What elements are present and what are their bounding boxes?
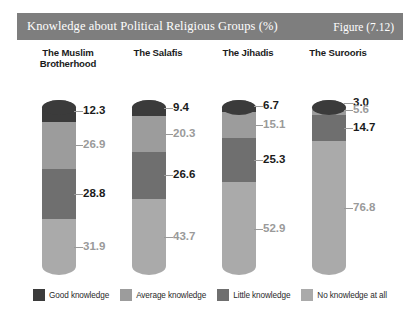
chart-group: The Surooris3.05.614.776.8 (290, 48, 386, 280)
stacked-cylinder-bar[interactable] (42, 100, 76, 275)
data-label: 26.9 (83, 138, 105, 150)
group-label: The Surooris (290, 48, 386, 59)
data-label: 9.4 (173, 101, 189, 113)
legend-item[interactable]: Good knowledge (33, 289, 109, 301)
group-label: The Jihadis (200, 48, 296, 59)
bar-segment[interactable] (42, 100, 76, 122)
group-label: The Salafis (110, 48, 206, 59)
data-label: 20.3 (173, 127, 195, 139)
bar-segment[interactable] (132, 100, 166, 116)
data-label: 52.9 (263, 222, 285, 234)
stacked-cylinder-bar[interactable] (312, 100, 346, 275)
data-label: 26.6 (173, 168, 195, 180)
figure-number: Figure (7.12) (333, 21, 394, 33)
legend-label: Average knowledge (136, 291, 206, 300)
bar-segment[interactable] (222, 182, 256, 275)
leader-line (164, 134, 173, 135)
leader-line (74, 247, 83, 248)
leader-line (164, 108, 173, 109)
data-label: 6.7 (263, 99, 279, 111)
legend-swatch-icon (120, 289, 132, 301)
legend-label: No knowledge at all (317, 291, 387, 300)
legend-swatch-icon (217, 289, 229, 301)
data-label: 12.3 (83, 104, 105, 116)
data-label: 14.7 (353, 121, 375, 133)
chart-legend: Good knowledgeAverage knowledgeLittle kn… (0, 286, 420, 304)
stacked-cylinder-bar[interactable] (132, 100, 166, 275)
group-label: The MuslimBrotherhood (20, 48, 116, 69)
bar-segment[interactable] (312, 105, 346, 115)
data-label: 15.1 (263, 118, 285, 130)
leader-line (164, 175, 173, 176)
chart-title-bar: Knowledge about Political Religious Grou… (17, 13, 403, 40)
leader-line (74, 145, 83, 146)
data-label: 43.7 (173, 230, 195, 242)
leader-line (344, 128, 353, 129)
bar-segment[interactable] (222, 100, 256, 112)
legend-label: Little knowledge (233, 291, 290, 300)
bar-segment[interactable] (312, 141, 346, 275)
leader-line (344, 208, 353, 209)
data-label: 5.6 (353, 103, 369, 115)
bar-segment[interactable] (222, 138, 256, 182)
legend-swatch-icon (33, 289, 45, 301)
bar-segment[interactable] (42, 219, 76, 275)
chart-page: Knowledge about Political Religious Grou… (0, 0, 420, 326)
leader-line (344, 103, 353, 104)
leader-line (254, 125, 263, 126)
chart-group: The MuslimBrotherhood12.326.928.831.9 (20, 48, 116, 280)
leader-line (254, 160, 263, 161)
data-label: 76.8 (353, 201, 375, 213)
chart-group: The Jihadis6.715.125.352.9 (200, 48, 296, 280)
legend-item[interactable]: Average knowledge (120, 289, 206, 301)
bar-segment[interactable] (132, 199, 166, 275)
bar-segment[interactable] (42, 122, 76, 169)
leader-line (254, 229, 263, 230)
leader-line (344, 110, 353, 111)
bar-segment[interactable] (312, 115, 346, 141)
chart-group: The Salafis9.420.326.643.7 (110, 48, 206, 280)
legend-swatch-icon (301, 289, 313, 301)
plot-area: The MuslimBrotherhood12.326.928.831.9The… (0, 48, 420, 280)
data-label: 31.9 (83, 240, 105, 252)
leader-line (164, 237, 173, 238)
legend-item[interactable]: No knowledge at all (301, 289, 387, 301)
bar-segment[interactable] (42, 169, 76, 219)
bar-segment[interactable] (132, 152, 166, 199)
legend-item[interactable]: Little knowledge (217, 289, 290, 301)
data-label: 25.3 (263, 153, 285, 165)
stacked-cylinder-bar[interactable] (222, 100, 256, 275)
data-label: 28.8 (83, 187, 105, 199)
page-title: Knowledge about Political Religious Grou… (27, 19, 278, 34)
leader-line (74, 194, 83, 195)
leader-line (74, 111, 83, 112)
leader-line (254, 106, 263, 107)
bar-segment[interactable] (222, 112, 256, 138)
legend-label: Good knowledge (49, 291, 109, 300)
bar-segment[interactable] (132, 116, 166, 152)
